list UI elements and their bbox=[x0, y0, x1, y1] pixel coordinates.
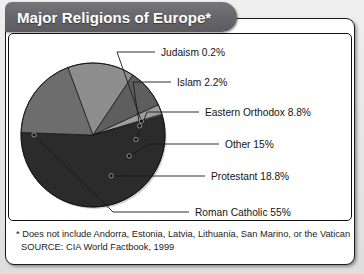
footnote-source: SOURCE: CIA World Factbook, 1999 bbox=[16, 241, 352, 254]
callout-marker-eastern-orthodox bbox=[134, 137, 138, 141]
footnotes-block: * Does not include Andorra, Estonia, Lat… bbox=[16, 228, 352, 253]
callout-label-judaism: Judaism 0.2% bbox=[161, 47, 225, 58]
callout-marker-roman-catholic bbox=[32, 133, 36, 137]
callout-marker-other bbox=[127, 154, 131, 158]
page-title: Major Religions of Europe* bbox=[17, 9, 211, 26]
callout-marker-protestant bbox=[109, 174, 113, 178]
callout-label-islam: Islam 2.2% bbox=[177, 77, 227, 88]
footnote-disclaimer: * Does not include Andorra, Estonia, Lat… bbox=[16, 228, 352, 241]
callout-marker-judaism bbox=[139, 119, 143, 123]
callout-label-other: Other 15% bbox=[225, 139, 274, 150]
title-bar: Major Religions of Europe* bbox=[5, 2, 237, 32]
pie-chart-panel: Roman Catholic 55%Protestant 18.8%Other … bbox=[8, 33, 352, 221]
callout-marker-islam bbox=[138, 124, 142, 128]
callout-label-roman-catholic: Roman Catholic 55% bbox=[195, 207, 291, 218]
callout-label-eastern-orthodox: Eastern Orthodox 8.8% bbox=[205, 107, 311, 118]
callout-label-protestant: Protestant 18.8% bbox=[211, 171, 289, 182]
figure-root: Major Religions of Europe* Roman Catholi… bbox=[0, 0, 364, 274]
pie-chart-svg: Roman Catholic 55%Protestant 18.8%Other … bbox=[9, 34, 352, 221]
